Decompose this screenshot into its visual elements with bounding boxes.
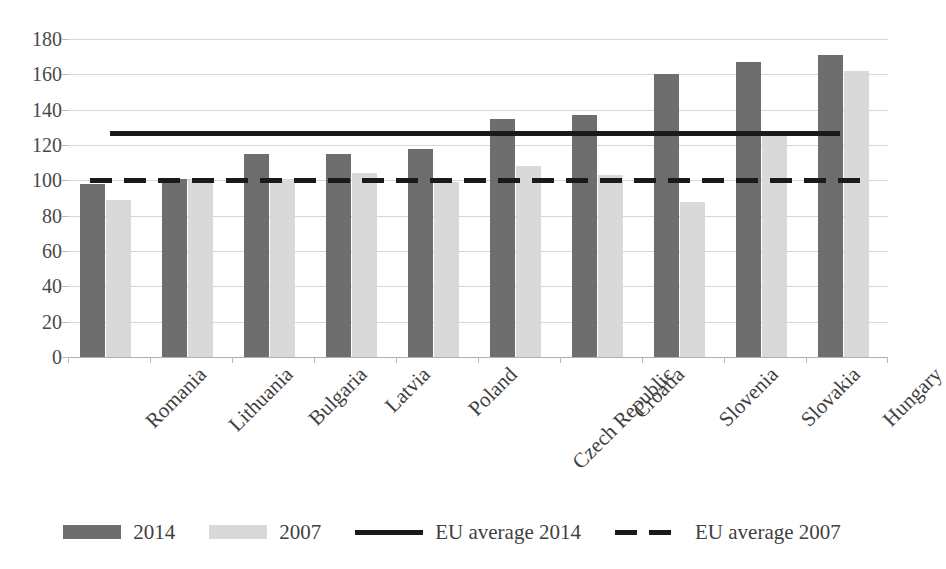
bar-group — [314, 39, 396, 357]
y-axis-tick-label: 40 — [6, 276, 62, 296]
legend-item-label: EU average 2007 — [695, 522, 841, 543]
x-axis-tick-label: Latvia — [381, 363, 434, 416]
bar-2007 — [270, 179, 295, 357]
bar-group — [232, 39, 314, 357]
bar-group — [150, 39, 232, 357]
legend-swatch-eu-average-2007 — [615, 530, 683, 535]
chart-legend: 20142007EU average 2014EU average 2007 — [0, 512, 904, 552]
legend-item: 2007 — [209, 522, 321, 543]
bar-2014 — [572, 115, 597, 357]
bar-2014 — [326, 154, 351, 357]
bar-group — [642, 39, 724, 357]
legend-swatch-2014 — [63, 525, 121, 539]
y-axis-tick-label: 180 — [6, 29, 62, 49]
bar-2014 — [736, 62, 761, 357]
y-axis-tick-label: 140 — [6, 100, 62, 120]
legend-item-label: 2007 — [279, 522, 321, 543]
bar-2007 — [598, 175, 623, 357]
y-axis-tick-label: 160 — [6, 64, 62, 84]
x-axis-tick-label: Romania — [141, 363, 210, 432]
bar-group — [724, 39, 806, 357]
y-axis-tick-label: 120 — [6, 135, 62, 155]
x-axis-tick-label: Slovenia — [714, 363, 782, 431]
bar-group — [478, 39, 560, 357]
bar-2014 — [80, 184, 105, 357]
x-axis: RomaniaLithuaniaBulgariaLatviaPolandCzec… — [68, 363, 888, 493]
legend-swatch-2007 — [209, 525, 267, 539]
bar-2007 — [106, 200, 131, 357]
legend-item-label: 2014 — [133, 522, 175, 543]
y-axis-tick-label: 60 — [6, 241, 62, 261]
legend-item-label: EU average 2014 — [435, 522, 581, 543]
bar-group — [560, 39, 642, 357]
y-axis-tick-label: 80 — [6, 206, 62, 226]
y-axis-tick-label: 0 — [6, 347, 62, 367]
y-axis: 020406080100120140160180 — [0, 39, 62, 357]
legend-swatch-eu-average-2014 — [355, 530, 423, 535]
bar-2007 — [844, 71, 869, 357]
eu-average-2014-line — [110, 131, 840, 136]
bar-2014 — [654, 74, 679, 357]
y-axis-tick-label: 100 — [6, 170, 62, 190]
x-axis-tick-label: Poland — [464, 363, 521, 420]
bar-2007 — [762, 134, 787, 357]
x-axis-tick-label: Hungary — [878, 363, 946, 431]
x-axis-tick-label: Slovakia — [796, 363, 864, 431]
eu-average-2007-line — [90, 178, 860, 183]
bar-2014 — [490, 119, 515, 358]
bar-2007 — [188, 179, 213, 357]
bar-2007 — [680, 202, 705, 357]
bar-group — [806, 39, 888, 357]
x-axis-tick-label: Lithuania — [224, 363, 296, 435]
bar-group — [68, 39, 150, 357]
bar-group — [396, 39, 478, 357]
legend-item: EU average 2014 — [355, 522, 581, 543]
y-axis-tick-label: 20 — [6, 312, 62, 332]
bar-2007 — [434, 182, 459, 357]
legend-item: EU average 2007 — [615, 522, 841, 543]
bar-2014 — [162, 179, 187, 357]
bar-2014 — [818, 55, 843, 357]
bar-2014 — [244, 154, 269, 357]
legend-item: 2014 — [63, 522, 175, 543]
x-axis-tick-label: Bulgaria — [304, 363, 371, 430]
bar-2007 — [516, 166, 541, 357]
plot-area — [68, 39, 888, 357]
bar-2007 — [352, 173, 377, 357]
